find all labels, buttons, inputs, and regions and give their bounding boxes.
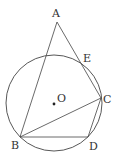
segment-ab xyxy=(20,22,57,137)
center-point-o xyxy=(53,103,56,106)
geometry-diagram: A E O C B D xyxy=(0,0,118,156)
label-e: E xyxy=(83,52,91,65)
segment-cd xyxy=(88,98,101,137)
label-o: O xyxy=(57,92,66,105)
label-a: A xyxy=(51,7,61,20)
label-b: B xyxy=(11,139,19,152)
label-c: C xyxy=(103,93,111,106)
label-d: D xyxy=(89,140,98,153)
segment-ac xyxy=(57,22,101,98)
